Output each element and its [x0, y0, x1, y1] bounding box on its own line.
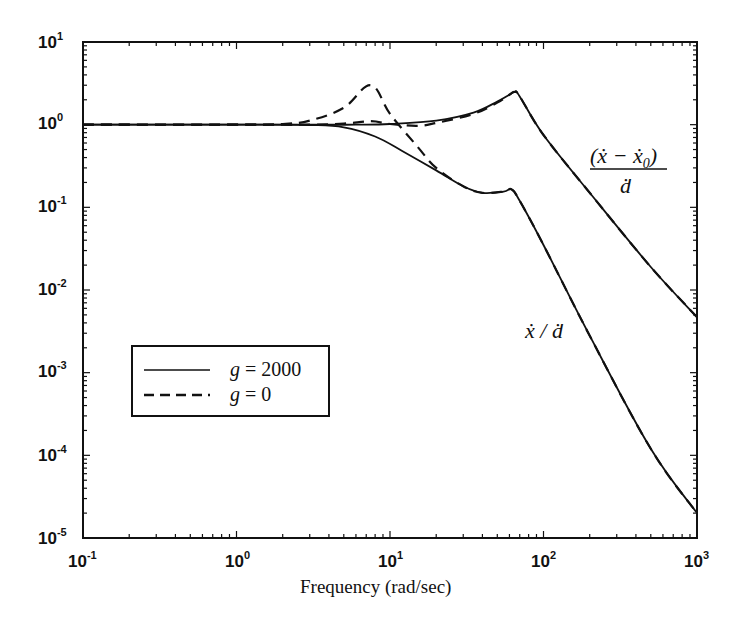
- y-axis-labels: 101 100 10-1 10-2 10-3 10-4 10-5: [38, 30, 68, 548]
- x-tick-label: 103: [684, 549, 709, 571]
- bode-magnitude-chart: 101 100 10-1 10-2 10-3 10-4 10-5 10-1 10…: [0, 0, 748, 628]
- y-tick-label: 10-3: [38, 359, 67, 381]
- x-tick-label: 100: [225, 549, 250, 571]
- solid-curve-g2000: [83, 125, 697, 513]
- x-axis-labels: 10-1 100 101 102 103: [68, 549, 709, 571]
- legend-label-solid: g = 2000: [230, 358, 301, 381]
- legend-box: [132, 346, 329, 416]
- y-tick-label: 10-4: [38, 443, 68, 465]
- x-tick-label: 102: [531, 549, 556, 571]
- annotation-numerator: (ẋ − ẋ0): [590, 143, 657, 171]
- dashed-curve-g0: [83, 91, 697, 317]
- annotation-lower-curve: ẋ / ḋ: [524, 318, 564, 343]
- annotation-upper-curve: (ẋ − ẋ0) ḋ: [590, 143, 667, 198]
- annotation-denominator: ḋ: [620, 173, 632, 198]
- axis-ticks: [83, 42, 697, 538]
- y-tick-label: 10-5: [38, 526, 67, 548]
- y-tick-label: 101: [38, 30, 63, 52]
- legend-label-dashed: g = 0: [230, 383, 271, 406]
- y-tick-label: 10-1: [38, 194, 67, 216]
- plot-frame: [83, 42, 697, 538]
- y-tick-label: 100: [38, 111, 63, 133]
- legend: g = 2000 g = 0: [132, 346, 329, 416]
- x-axis-title: Frequency (rad/sec): [300, 576, 451, 598]
- x-tick-label: 101: [378, 549, 403, 571]
- y-tick-label: 10-2: [38, 277, 67, 299]
- x-tick-label: 10-1: [68, 549, 97, 571]
